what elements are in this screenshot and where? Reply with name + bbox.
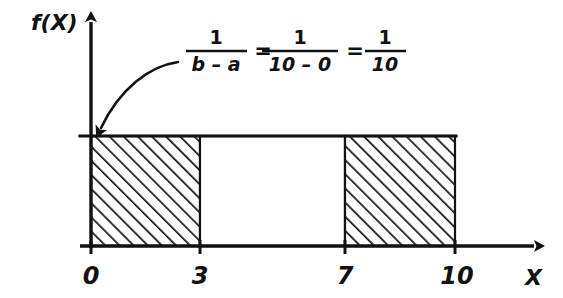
x-axis-label: X bbox=[523, 265, 543, 290]
fraction-3-numerator: 1 bbox=[378, 26, 391, 48]
fraction-1-denominator: b – a bbox=[191, 53, 240, 75]
figure-canvas: f(X) X 0 3 7 10 1 b – a = 1 10 – 0 = 1 1… bbox=[0, 0, 563, 298]
fraction-2-numerator: 1 bbox=[293, 26, 306, 48]
fraction-2-denominator: 10 – 0 bbox=[269, 53, 331, 75]
x-tick-label-3: 3 bbox=[192, 262, 209, 290]
x-tick-label-7: 7 bbox=[337, 262, 354, 290]
x-tick-label-0: 0 bbox=[83, 262, 100, 290]
annotation-arrow-icon bbox=[101, 62, 178, 128]
y-axis-label: f(X) bbox=[31, 10, 78, 35]
x-tick-label-10: 10 bbox=[440, 262, 473, 290]
shaded-region-7-to-10 bbox=[345, 136, 455, 246]
uniform-distribution-figure: f(X) X 0 3 7 10 1 b – a = 1 10 – 0 = 1 1… bbox=[0, 0, 563, 298]
unshaded-region-3-to-7 bbox=[200, 136, 345, 246]
equals-sign-2: = bbox=[346, 39, 364, 63]
shaded-region-0-to-3 bbox=[91, 136, 200, 246]
fraction-1-numerator: 1 bbox=[209, 26, 222, 48]
fraction-3-denominator: 10 bbox=[372, 53, 398, 75]
